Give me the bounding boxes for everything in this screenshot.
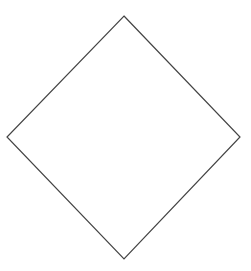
diamond-shape bbox=[7, 16, 240, 259]
diagram-canvas bbox=[0, 0, 251, 271]
